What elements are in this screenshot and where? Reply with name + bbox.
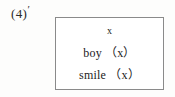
predicate-box: x boy （x） smile （x） (55, 17, 164, 90)
formula-label: (4)′ (11, 6, 30, 21)
box-line-variable: x (56, 25, 163, 37)
formula-label-number: (4) (11, 6, 27, 21)
box-line-smile-predicate: smile （x） (56, 68, 163, 82)
box-line-boy-predicate: boy （x） (56, 46, 163, 60)
formula-label-prime: ′ (28, 3, 31, 15)
figure-root: (4)′ x boy （x） smile （x） (0, 0, 175, 97)
